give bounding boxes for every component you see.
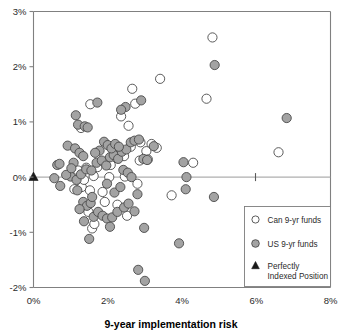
data-point-us xyxy=(133,190,142,199)
data-point-us xyxy=(67,164,76,173)
y-tick-label: 0% xyxy=(13,172,27,183)
data-point-can xyxy=(124,121,133,130)
legend-label: US 9-yr funds xyxy=(268,240,318,249)
data-point-us xyxy=(143,155,152,164)
x-tick-label: 0% xyxy=(27,295,41,306)
chart-svg: 3%2%1%0%-1%-2% 0%2%4%6%8% Can 9-yr funds… xyxy=(0,0,341,333)
chart-legend: Can 9-yr fundsUS 9-yr fundsPerfectlyInde… xyxy=(245,207,331,287)
data-point-can xyxy=(274,148,283,157)
data-point-us xyxy=(102,179,111,188)
y-tick-label: -2% xyxy=(10,282,27,293)
data-point-us xyxy=(127,173,136,182)
data-point-us xyxy=(124,199,133,208)
data-point-can xyxy=(100,197,109,206)
data-point-us xyxy=(130,207,139,216)
x-tick-label: 4% xyxy=(175,295,189,306)
data-point-us xyxy=(71,111,80,120)
data-point-can xyxy=(189,158,198,167)
y-tick-label: 1% xyxy=(13,116,27,127)
legend-label: Perfectly xyxy=(268,262,301,271)
legend-label: Can 9-yr funds xyxy=(268,216,322,225)
data-point-us xyxy=(79,217,88,226)
data-point-can xyxy=(202,94,211,103)
y-tick-label: 2% xyxy=(13,61,27,72)
data-point-can xyxy=(208,33,217,42)
x-tick-label: 6% xyxy=(249,295,263,306)
data-point-us xyxy=(209,192,218,201)
data-point-can xyxy=(128,84,137,93)
data-point-us xyxy=(181,185,190,194)
scatter-chart: 3%2%1%0%-1%-2% 0%2%4%6%8% Can 9-yr funds… xyxy=(0,0,341,333)
data-point-us xyxy=(91,148,100,157)
data-point-us xyxy=(117,105,126,114)
data-point-us xyxy=(210,60,219,69)
data-point-us xyxy=(50,174,59,183)
data-point-us xyxy=(93,98,102,107)
data-point-us xyxy=(116,182,125,191)
data-point-us xyxy=(140,276,149,285)
data-point-us xyxy=(55,159,64,168)
data-point-us xyxy=(174,239,183,248)
y-tick-label: -1% xyxy=(10,227,27,238)
data-point-can xyxy=(167,191,176,200)
x-tick-label: 8% xyxy=(324,295,338,306)
data-point-us xyxy=(102,161,111,170)
data-point-us xyxy=(79,152,88,161)
data-point-can xyxy=(156,74,165,83)
data-point-us xyxy=(140,223,149,232)
data-point-us xyxy=(75,205,84,214)
data-point-us xyxy=(134,135,143,144)
legend-label-line2: Indexed Position xyxy=(268,272,329,281)
data-point-us xyxy=(114,142,123,151)
data-point-us xyxy=(83,123,92,132)
data-point-us xyxy=(182,173,191,182)
data-point-us xyxy=(56,181,65,190)
y-tick-label: 3% xyxy=(13,6,27,17)
data-point-us xyxy=(88,192,97,201)
x-tick-label: 2% xyxy=(101,295,115,306)
data-point-us xyxy=(149,142,158,151)
data-point-us xyxy=(179,158,188,167)
x-axis-title: 9-year implementation risk xyxy=(104,318,237,330)
data-point-can xyxy=(98,187,107,196)
legend-marker-can xyxy=(252,216,259,223)
data-point-us xyxy=(105,222,114,231)
data-point-us xyxy=(282,113,291,122)
data-point-us xyxy=(137,96,146,105)
data-point-us xyxy=(134,265,143,274)
data-point-us xyxy=(73,186,82,195)
legend-marker-us xyxy=(252,240,260,248)
data-point-us xyxy=(85,234,94,243)
